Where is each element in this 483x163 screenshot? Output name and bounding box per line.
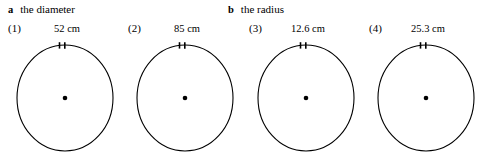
figure-measure-label: 52 cm xyxy=(0,22,120,35)
center-point-dot xyxy=(424,96,429,101)
circle-diagram xyxy=(131,40,234,158)
center-point-dot xyxy=(183,96,188,101)
center-point-dot xyxy=(304,96,309,101)
figure-measure-label: 85 cm xyxy=(120,22,240,35)
worksheet-figure-panel: athe diameter bthe radius (1) 52 cm (2) … xyxy=(0,0,483,163)
circle-diagram xyxy=(252,40,355,158)
circle-diagram xyxy=(11,40,114,158)
circle-diagram xyxy=(372,40,475,158)
center-point-dot xyxy=(63,96,68,101)
figure-measure-label: 12.6 cm xyxy=(241,22,361,35)
figure-item: (1) 52 cm xyxy=(0,0,120,163)
figure-item: (4) 25.3 cm xyxy=(361,0,481,163)
figure-measure-label: 25.3 cm xyxy=(361,22,481,35)
figure-item: (2) 85 cm xyxy=(120,0,240,163)
figure-item: (3) 12.6 cm xyxy=(241,0,361,163)
